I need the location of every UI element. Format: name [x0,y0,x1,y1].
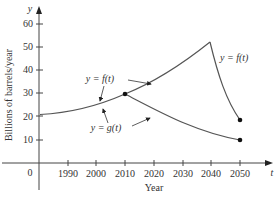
f-label: y = f(t) [85,73,115,85]
f-label-right: y = f(t) [219,52,249,64]
y-axis-title: Billions of barrels/year [3,48,14,141]
x-axis-arrow-icon [265,160,273,166]
point-2010 [123,92,128,97]
x-axis-variable: t [271,167,274,178]
y-tick-label: 50 [23,41,33,52]
chart-canvas: 60 50 40 30 20 10 0 y 1990 2000 2010 202… [0,0,276,198]
f-curve-rising [125,42,210,94]
g-curve [125,94,240,140]
shared-curve [40,94,125,115]
x-tick-label: 2020 [144,168,164,179]
y-tick-label: 20 [23,111,33,122]
x-axis-title: Year [145,182,164,193]
g-label-leader-right [132,118,150,126]
origin-label: 0 [28,167,33,178]
g-label-leader [103,109,108,123]
g-label: y = g(t) [90,122,122,134]
f-label-leader-right [128,80,151,84]
x-tick-label: 2050 [230,168,250,179]
x-tick-label: 2000 [86,168,106,179]
y-axis-arrow-icon [36,6,42,14]
x-tick-label: 1990 [58,168,78,179]
y-tick-label: 30 [23,87,33,98]
point-f-2050 [238,118,243,123]
y-axis-variable: y [27,3,33,14]
y-tick-label: 40 [23,64,33,75]
point-g-2050 [238,138,243,143]
x-tick-label: 2040 [201,168,221,179]
x-tick-label: 2010 [115,168,135,179]
x-tick-label: 2030 [173,168,193,179]
y-tick-label: 10 [23,134,33,145]
f-label-leader [100,86,104,101]
y-tick-label: 60 [23,18,33,29]
